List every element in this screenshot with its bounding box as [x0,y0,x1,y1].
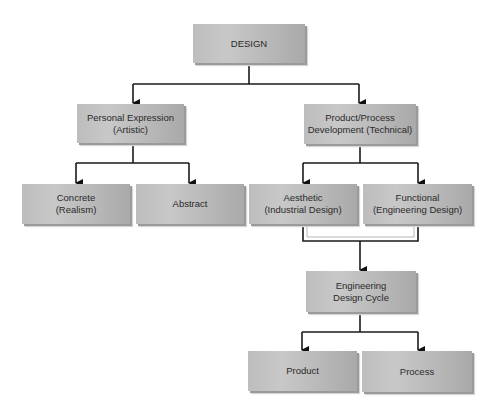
node-label: Aesthetic (Industrial Design) [264,192,341,216]
node-label: Personal Expression (Artistic) [87,112,174,136]
node-design: DESIGN [193,24,305,63]
node-label: DESIGN [231,38,267,50]
node-label: Product [286,365,319,377]
node-aesthetic: Aesthetic (Industrial Design) [249,184,357,224]
node-engineering-design-cycle: Engineering Design Cycle [306,271,416,312]
node-label: Product/Process Development (Technical) [308,112,413,136]
node-label: Functional (Engineering Design) [373,192,462,216]
node-label: Engineering Design Cycle [333,280,389,304]
node-personal-expression: Personal Expression (Artistic) [77,104,184,143]
node-process: Process [362,351,472,392]
edge-merge-outer [303,224,418,241]
node-functional: Functional (Engineering Design) [363,184,472,224]
node-product-process-development: Product/Process Development (Technical) [304,104,416,144]
node-label: Process [400,366,434,378]
node-concrete: Concrete (Realism) [22,184,130,224]
node-product: Product [248,351,357,391]
node-label: Concrete (Realism) [56,192,97,216]
node-abstract: Abstract [136,184,244,224]
node-label: Abstract [173,198,208,210]
